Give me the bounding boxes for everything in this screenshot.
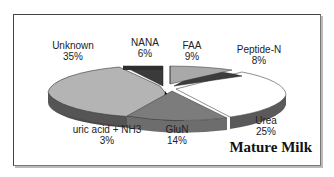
label-uric-pct: 3% — [73, 135, 142, 146]
label-urea-pct: 25% — [255, 126, 277, 137]
label-unknown-name: Unknown — [52, 40, 94, 51]
label-unknown: Unknown 35% — [52, 40, 94, 62]
label-unknown-pct: 35% — [52, 51, 94, 62]
label-nana: NANA 6% — [131, 37, 159, 59]
label-uric-acid-nh3: uric acid + NH3 3% — [73, 124, 142, 146]
label-faa-name: FAA — [183, 40, 202, 51]
label-uric-name: uric acid + NH3 — [73, 124, 142, 135]
label-peptide-n-pct: 8% — [237, 55, 281, 66]
label-faa: FAA 9% — [183, 40, 202, 62]
label-glun-name: GluN — [166, 124, 189, 135]
label-nana-pct: 6% — [131, 48, 159, 59]
chart-title: Mature Milk — [229, 139, 312, 156]
label-glun: GluN 14% — [166, 124, 189, 146]
label-faa-pct: 9% — [183, 51, 202, 62]
label-peptide-n-name: Peptide-N — [237, 44, 281, 55]
label-urea-name: Urea — [255, 115, 277, 126]
label-urea: Urea 25% — [255, 115, 277, 137]
label-nana-name: NANA — [131, 37, 159, 48]
label-glun-pct: 14% — [166, 135, 189, 146]
label-peptide-n: Peptide-N 8% — [237, 44, 281, 66]
